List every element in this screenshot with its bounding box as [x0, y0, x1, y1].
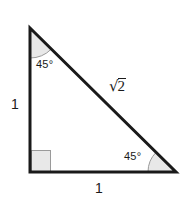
- side-label-left-leg: 1: [11, 97, 19, 111]
- angle-label-bottom-right: 45°: [124, 151, 141, 162]
- triangle-svg: [0, 0, 188, 204]
- angle-label-top: 45°: [36, 59, 53, 70]
- right-angle-marker: [32, 151, 51, 172]
- radical-expression: √2: [109, 78, 126, 94]
- triangle-figure: 45° 45° 1 1 √2: [0, 0, 188, 204]
- triangle-outline: [30, 28, 176, 172]
- radicand: 2: [118, 78, 127, 94]
- side-label-base: 1: [95, 181, 103, 195]
- side-label-hypotenuse: √2: [109, 78, 126, 94]
